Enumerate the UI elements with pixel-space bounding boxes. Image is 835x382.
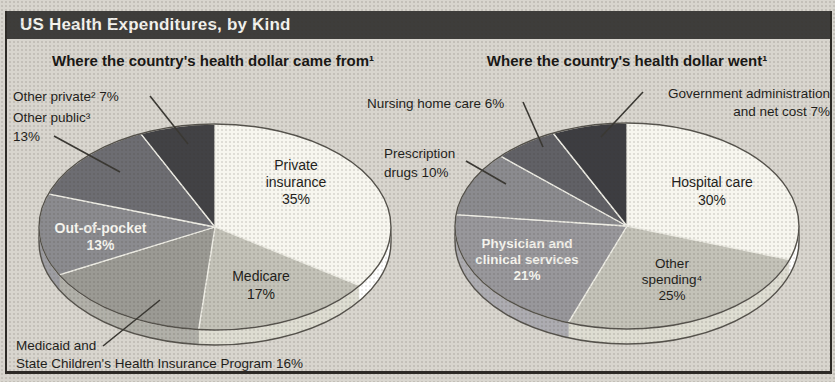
slice-label-out-of-pocket: Out-of-pocket 13% xyxy=(28,220,173,254)
pie-chart-1 xyxy=(455,123,799,344)
label-nursing-home-care: Nursing home care 6% xyxy=(367,94,504,113)
slice-label-physician-clinical: Physician and clinical services 21% xyxy=(447,236,607,284)
label-other-public: Other public³ 13% xyxy=(13,108,90,146)
left-pie-title: Where the country's health dollar came f… xyxy=(5,52,421,69)
label-government-administration: Government administration and net cost 7… xyxy=(640,85,830,121)
label-medicaid-schip: Medicaid and State Children's Health Ins… xyxy=(16,337,303,373)
slice-label-other-spending: Other spending⁴ 25% xyxy=(612,256,732,304)
figure-canvas: US Health Expenditures, by Kind Where th… xyxy=(0,0,835,382)
label-prescription-drugs: Prescription drugs 10% xyxy=(384,144,455,182)
right-pie-title: Where the country's health dollar went¹ xyxy=(428,52,826,69)
label-other-private: Other private² 7% xyxy=(13,87,119,106)
slice-label-hospital-care: Hospital care 30% xyxy=(652,173,772,209)
slice-label-private-insurance: Private insurance 35% xyxy=(236,157,356,208)
slice-label-medicare: Medicare 17% xyxy=(201,267,321,303)
